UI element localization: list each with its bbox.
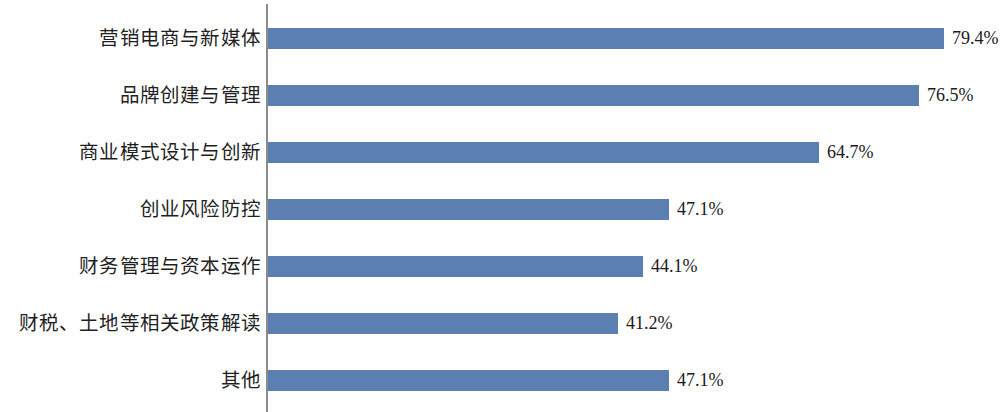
bar-row: 商业模式设计与创新 64.7% [0, 142, 1006, 199]
bar-segment [268, 199, 669, 220]
bar-row: 财务管理与资本运作 44.1% [0, 256, 1006, 313]
category-label: 品牌创建与管理 [0, 85, 261, 106]
category-label: 财务管理与资本运作 [0, 256, 261, 277]
bar-value-label: 44.1% [651, 256, 698, 277]
category-label: 财税、土地等相关政策解读 [0, 313, 261, 334]
bar-row: 创业风险防控 47.1% [0, 199, 1006, 256]
bar-value-label: 76.5% [927, 85, 974, 106]
bar-segment [268, 313, 618, 334]
horizontal-bar-chart: 营销电商与新媒体 79.4% 品牌创建与管理 76.5% 商业模式设计与创新 6… [0, 0, 1006, 412]
bar-row: 品牌创建与管理 76.5% [0, 85, 1006, 142]
category-label: 其他 [0, 370, 261, 391]
bar-value-label: 64.7% [827, 142, 874, 163]
bar-value-label: 47.1% [677, 370, 724, 391]
bar-segment [268, 370, 669, 391]
category-axis-line [266, 4, 268, 412]
plot-area: 营销电商与新媒体 79.4% 品牌创建与管理 76.5% 商业模式设计与创新 6… [0, 0, 1006, 412]
bar-row: 其他 47.1% [0, 370, 1006, 412]
category-label: 创业风险防控 [0, 199, 261, 220]
bar-segment [268, 28, 944, 49]
bar-segment [268, 142, 819, 163]
bar-value-label: 79.4% [952, 28, 999, 49]
bar-value-label: 47.1% [677, 199, 724, 220]
bar-segment [268, 256, 643, 277]
category-label: 商业模式设计与创新 [0, 142, 261, 163]
bar-row: 财税、土地等相关政策解读 41.2% [0, 313, 1006, 370]
category-label: 营销电商与新媒体 [0, 28, 261, 49]
bar-row: 营销电商与新媒体 79.4% [0, 28, 1006, 85]
bar-segment [268, 85, 919, 106]
bar-value-label: 41.2% [626, 313, 673, 334]
